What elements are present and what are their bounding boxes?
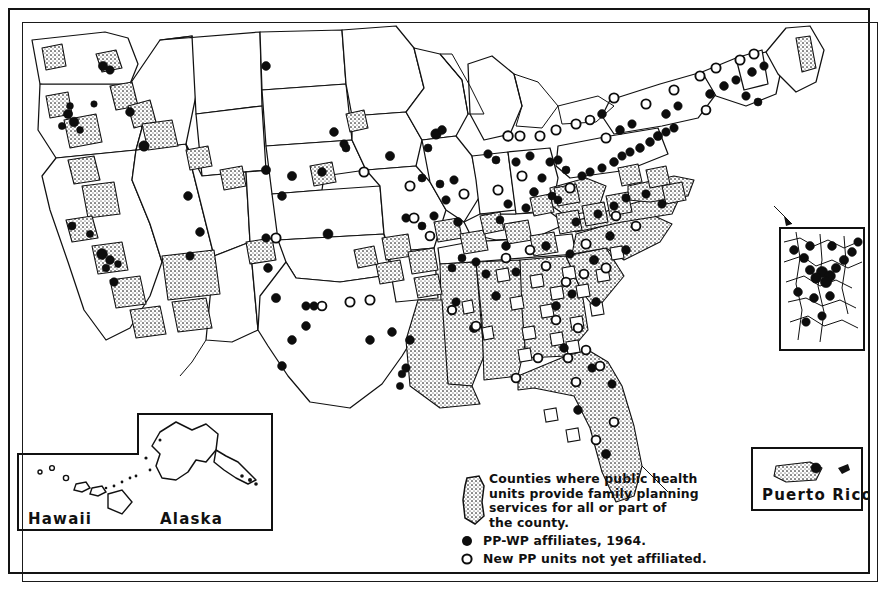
legend-shaded-row: Counties where public health units provi… bbox=[459, 472, 739, 530]
inset-northeast-metro bbox=[774, 206, 864, 350]
inset-puerto-rico: Puerto Rico bbox=[752, 448, 868, 510]
legend-label-new-units: New PP units not yet affiliated. bbox=[483, 551, 707, 566]
mexico-border bbox=[180, 340, 206, 376]
legend-symbol-affiliates: PP-WP affiliates, 1964. bbox=[459, 533, 739, 548]
alaska-label: Alaska bbox=[160, 510, 223, 528]
map-frame: Alaska Hawaii Puerto bbox=[8, 8, 870, 574]
open-circle-icon bbox=[459, 552, 475, 566]
inset-hawaii: Hawaii bbox=[28, 466, 132, 528]
map-figure: Alaska Hawaii Puerto bbox=[0, 0, 880, 590]
hawaii-label: Hawaii bbox=[28, 510, 92, 528]
map-legend: Counties where public health units provi… bbox=[459, 472, 739, 566]
stipple-swatch-icon bbox=[459, 472, 489, 530]
puerto-rico-label: Puerto Rico bbox=[762, 486, 868, 504]
filled-circle-icon bbox=[459, 534, 475, 548]
legend-label-affiliates: PP-WP affiliates, 1964. bbox=[483, 533, 646, 548]
usa-map-svg: Alaska Hawaii Puerto bbox=[10, 10, 868, 572]
state-outlines-northeast bbox=[556, 26, 824, 178]
legend-shaded-description: Counties where public health units provi… bbox=[489, 472, 699, 530]
legend-symbol-new-units: New PP units not yet affiliated. bbox=[459, 551, 739, 566]
